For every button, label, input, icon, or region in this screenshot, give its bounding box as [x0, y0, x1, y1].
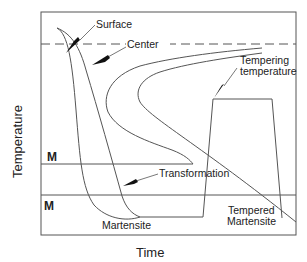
transformation-leader [136, 174, 158, 181]
transformation-label: Transformation [159, 167, 229, 179]
surface-label: Surface [96, 18, 132, 30]
surface-arrow-icon [66, 37, 80, 53]
mf-label: M [44, 199, 54, 213]
tempered-label-2: Martensite [227, 215, 276, 227]
center-arrow-icon [92, 55, 110, 65]
ms-label: M [47, 150, 57, 164]
transformation-arrow-icon [123, 179, 138, 186]
tempering-arrow-icon [214, 84, 224, 98]
center-leader [108, 47, 126, 57]
diagram-canvas: Surface Center Tempering temperature Tra… [0, 0, 307, 262]
tempering-cycle-line [140, 99, 282, 218]
center-label: Center [127, 38, 159, 50]
martensite-label: Martensite [102, 219, 151, 231]
surface-cooling-curve [57, 28, 140, 219]
x-axis-label: Time [136, 245, 164, 260]
surface-leader [80, 25, 95, 40]
y-axis-label: Temperature [10, 105, 25, 178]
transformation-finish-curve [138, 53, 296, 222]
tempering-label-2: temperature [240, 65, 297, 77]
tempering-leader [224, 68, 237, 86]
